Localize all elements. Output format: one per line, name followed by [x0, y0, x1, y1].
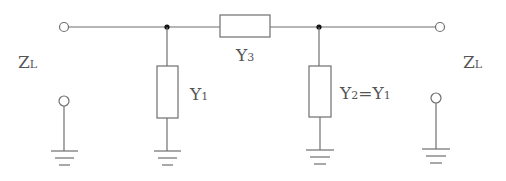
right-output-terminal: [436, 23, 445, 32]
ground-icon: [51, 151, 78, 165]
ground-icon: [422, 149, 450, 163]
series-admittance-y3: [220, 15, 270, 37]
right-lower-terminal: [431, 93, 441, 103]
right-load-label: ZL: [463, 52, 483, 72]
ground-icon: [154, 151, 181, 165]
y3-label: Y3: [235, 45, 254, 65]
y2-label: Y2=Y1: [339, 83, 391, 103]
left-lower-terminal: [59, 96, 69, 106]
left-load-label: ZL: [18, 52, 38, 72]
ground-icon: [306, 150, 334, 164]
pi-network-diagram: ZL ZL Y3 Y1 Y2=Y1: [0, 0, 506, 181]
y1-label: Y1: [189, 84, 208, 104]
shunt-admittance-y2: [309, 66, 331, 117]
left-input-terminal: [60, 23, 69, 32]
shunt-admittance-y1: [157, 66, 178, 118]
